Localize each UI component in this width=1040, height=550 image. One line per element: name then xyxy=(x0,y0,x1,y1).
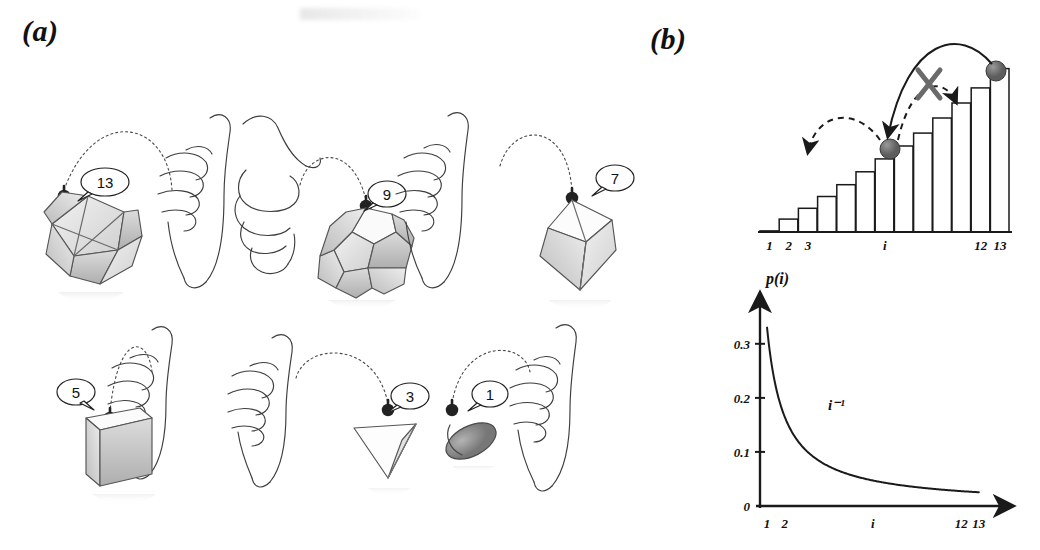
ball-marker-at-i xyxy=(880,139,900,159)
bubble-text-3: 3 xyxy=(406,388,414,405)
bar xyxy=(798,208,817,232)
pi-x-tick-label: 1 xyxy=(764,516,771,531)
pi-y-tick-label: 0.3 xyxy=(734,337,751,352)
pi-curve-annotation: i⁻¹ xyxy=(828,397,845,413)
hand-flicking-1 xyxy=(158,115,230,288)
pi-x-tick-label: i xyxy=(871,516,875,531)
polyhedron-cube xyxy=(86,408,156,504)
polyhedron-coin xyxy=(440,415,502,472)
bar xyxy=(779,219,798,232)
pi-x-tick-label: 2 xyxy=(780,516,788,531)
bar xyxy=(818,197,837,233)
bar xyxy=(875,159,894,232)
pi-x-tick-labels: 12i1213 xyxy=(764,516,986,531)
ball-marker-at-13 xyxy=(986,61,1006,81)
figure-root: (a) (b) xyxy=(0,0,1040,550)
hand-flicking-6 xyxy=(510,325,576,491)
flick-arc-9 xyxy=(300,158,366,206)
bar xyxy=(952,103,971,232)
bubble-text-7: 7 xyxy=(611,170,619,187)
bar xyxy=(856,172,875,232)
pi-y-tick-label: 0 xyxy=(744,499,751,514)
flick-arc-7 xyxy=(500,135,572,198)
bar xyxy=(933,118,952,232)
flick-arc-3 xyxy=(296,353,388,410)
panel-b-pi-curve: 00.10.20.3 12i1213 p(i) i⁻¹ xyxy=(700,250,1040,550)
bubble-text-5: 5 xyxy=(72,384,80,401)
hand-flicking-5 xyxy=(228,335,292,487)
pi-x-tick-label: 12 xyxy=(955,516,969,531)
pi-y-tick-label: 0.1 xyxy=(734,445,750,460)
bubble-text-1: 1 xyxy=(486,386,494,403)
hand-flicking-2 xyxy=(235,116,320,273)
bubble-text-13: 13 xyxy=(97,174,114,191)
bar xyxy=(894,146,913,232)
bar xyxy=(837,185,856,232)
bar xyxy=(990,69,1009,232)
transition-arrow-escape xyxy=(808,118,880,152)
panel-a-canvas: 13 9 7 5 3 1 xyxy=(0,0,640,550)
pi-y-axis-label: p(i) xyxy=(764,270,789,288)
pi-decay-curve xyxy=(767,328,979,493)
bar xyxy=(914,133,933,232)
panel-b-bar-chart: 123i1213 xyxy=(640,20,1040,270)
forbidden-x-icon xyxy=(918,70,940,98)
bar xyxy=(971,88,990,232)
bubble-text-9: 9 xyxy=(383,186,391,203)
polyhedron-tetrahedron xyxy=(354,424,416,496)
polyhedron-icosahedron xyxy=(44,192,142,303)
pi-x-tick-label: 13 xyxy=(972,516,986,531)
pi-y-tick-label: 0.2 xyxy=(734,391,751,406)
polyhedron-octahedron xyxy=(540,200,616,310)
polyhedron-dodecahedron xyxy=(318,208,414,309)
